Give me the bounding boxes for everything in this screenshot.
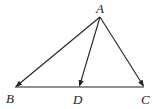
vector-ab [16, 17, 100, 87]
label-b: B [6, 91, 14, 106]
label-d: D [72, 92, 83, 107]
label-a: A [95, 1, 104, 16]
vector-ad [80, 17, 101, 86]
vector-ac [100, 17, 144, 86]
triangle-vector-diagram: A B D C [0, 0, 157, 109]
label-c: C [141, 92, 150, 107]
